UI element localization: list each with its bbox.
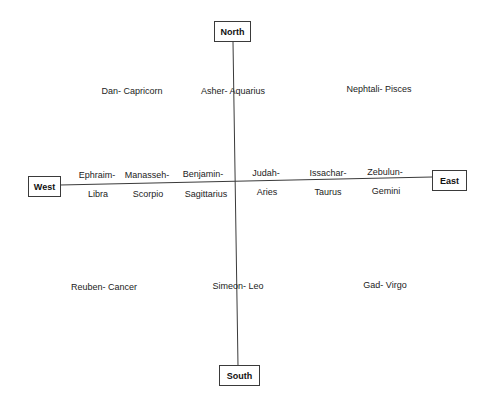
label-simeon-leo: Simeon- Leo bbox=[212, 281, 263, 291]
label-sign-sagittarius: Sagittarius bbox=[185, 189, 228, 199]
north-label: North bbox=[221, 27, 245, 37]
label-asher-aquarius: Asher- Aquarius bbox=[201, 86, 265, 96]
compass-lines bbox=[0, 0, 493, 409]
west-box: West bbox=[28, 176, 61, 197]
south-box: South bbox=[219, 365, 260, 386]
label-tribe-issachar: Issachar- bbox=[309, 168, 346, 178]
east-box: East bbox=[432, 170, 467, 191]
east-label: East bbox=[440, 176, 459, 186]
label-nephtali-pisces: Nephtali- Pisces bbox=[346, 84, 411, 94]
west-east-axis bbox=[60, 177, 432, 185]
south-label: South bbox=[227, 371, 253, 381]
label-tribe-judah: Judah- bbox=[252, 168, 280, 178]
label-sign-taurus: Taurus bbox=[314, 187, 341, 197]
label-sign-gemini: Gemini bbox=[372, 186, 401, 196]
label-reuben-cancer: Reuben- Cancer bbox=[71, 282, 137, 292]
west-label: West bbox=[34, 182, 55, 192]
label-sign-libra: Libra bbox=[88, 189, 108, 199]
label-tribe-benjamin: Benjamin- bbox=[183, 169, 224, 179]
label-tribe-zebulun: Zebulun- bbox=[367, 167, 403, 177]
label-tribe-manasseh: Manasseh- bbox=[125, 170, 170, 180]
label-gad-virgo: Gad- Virgo bbox=[363, 280, 406, 290]
label-sign-scorpio: Scorpio bbox=[133, 189, 164, 199]
north-box: North bbox=[214, 21, 251, 42]
label-dan-capricorn: Dan- Capricorn bbox=[101, 86, 162, 96]
label-sign-aries: Aries bbox=[257, 187, 278, 197]
label-tribe-ephraim: Ephraim- bbox=[79, 170, 116, 180]
